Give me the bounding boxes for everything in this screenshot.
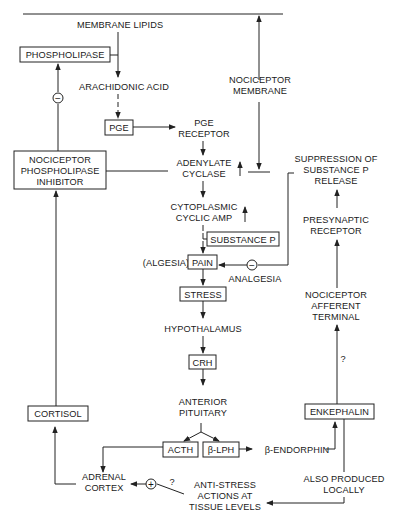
node-pge: PGE [109,123,129,133]
node-suppression-line1: SUPPRESSION OF [294,154,377,164]
node-stress: STRESS [184,290,221,300]
node-substance-p: SUBSTANCE P [210,235,275,245]
node-adrenal-cortex-line2: CORTEX [85,483,124,493]
arrow-local-to-anti-stress [267,497,344,503]
node-crh: CRH [192,358,212,368]
node-analgesia: ANALGESIA [229,274,283,284]
node-hypothalamus: HYPOTHALAMUS [164,324,241,334]
node-enkephalin: ENKEPHALIN [310,407,369,417]
node-inhibitor-line3: INHIBITOR [36,177,83,187]
node-beta-lph: β-LPH [208,445,235,455]
arrow-pituitary-to-beta-lph [201,432,219,441]
node-camp-line2: CYCLIC AMP [176,213,233,223]
node-anterior-pituitary-line2: PITUITARY [179,408,227,418]
node-afferent-line2: AFFERENT [311,301,361,311]
stimulate-symbol: + [148,479,154,490]
node-anti-stress-line2: ACTIONS AT [198,491,253,501]
node-afferent-line1: NOCICEPTOR [305,290,367,300]
node-suppression-line3: RELEASE [314,176,357,186]
node-phospholipase: PHOSPHOLIPASE [26,50,105,60]
node-also-produced-line1: ALSO PRODUCED [304,474,385,484]
node-afferent-line3: TERMINAL [312,312,359,322]
node-nociceptor-membrane-line2: MEMBRANE [233,86,287,96]
node-nociceptor-membrane-line1: NOCICEPTOR [229,75,291,85]
node-adrenal-cortex-line1: ADRENAL [82,472,126,482]
node-pain: PAIN [192,258,213,268]
node-inhibitor-line2: PHOSPHOLIPASE [21,166,100,176]
node-arachidonic-acid: ARACHIDONIC ACID [79,82,169,92]
node-suppression-line2: SUBSTANCE P [303,165,368,175]
node-presynaptic-line1: PRESYNAPTIC [303,215,369,225]
inhibit-symbol-analgesia: − [249,260,255,271]
node-pge-receptor-line2: RECEPTOR [178,129,230,139]
arrow-adrenal-to-cortisol [55,427,76,484]
uncertain-mark-enkephalin: ? [340,354,345,364]
node-anti-stress-line3: TISSUE LEVELS [189,502,261,512]
node-acth: ACTH [168,445,193,455]
node-anti-stress-line1: ANTI-STRESS [194,480,256,490]
node-anterior-pituitary-line1: ANTERIOR [179,397,228,407]
node-also-produced-line2: LOCALLY [323,485,364,495]
node-algesia: (ALGESIA) [143,258,189,268]
inhibit-symbol: − [55,93,61,104]
node-beta-endorphin: β-ENDORPHIN [265,445,330,455]
pain-stress-pathway-diagram: MEMBRANE LIPIDS PHOSPHOLIPASE ARACHIDONI… [0,0,394,528]
uncertain-mark-adrenal: ? [169,477,174,487]
node-membrane-lipids: MEMBRANE LIPIDS [77,20,163,30]
arrow-acth-to-adrenal [103,447,163,472]
node-camp-line1: CYTOPLASMIC [171,202,238,212]
suppression-feedback-line [258,173,294,265]
arrow-pituitary-to-acth [184,432,201,441]
node-pge-receptor-line1: PGE [194,118,214,128]
node-adenylate-cyclase-line1: ADENYLATE [177,158,232,168]
node-presynaptic-line2: RECEPTOR [310,226,362,236]
node-adenylate-cyclase-line2: CYCLASE [182,169,226,179]
node-cortisol: CORTISOL [34,409,82,419]
node-inhibitor-line1: NOCICEPTOR [29,155,91,165]
